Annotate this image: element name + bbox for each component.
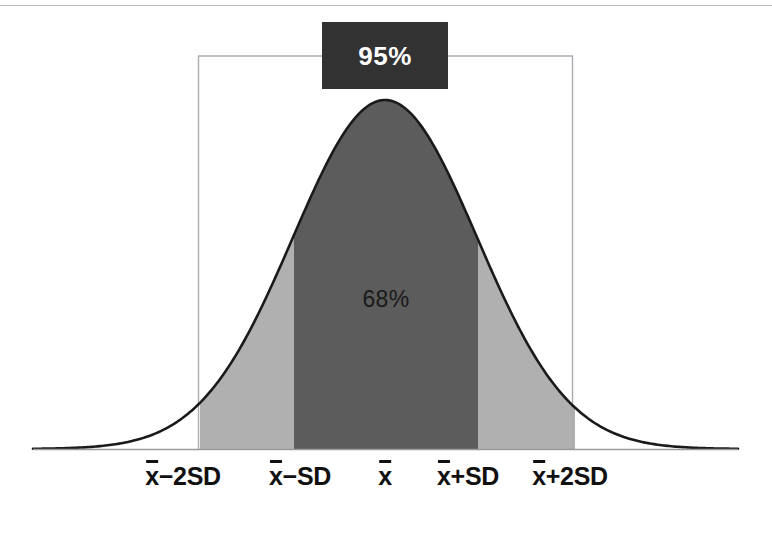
x-axis-tick-label: x+SD	[437, 462, 499, 491]
x-axis-tick-offset: +SD	[451, 462, 499, 490]
ci95-callout-box: 95%	[322, 22, 448, 89]
x-bar-symbol: x	[378, 462, 392, 491]
x-axis-tick-offset: +2SD	[546, 462, 608, 490]
x-axis-tick-label: x−2SD	[145, 462, 221, 491]
x-axis-tick-label: x	[378, 462, 392, 491]
x-axis-tick-label: x+2SD	[532, 462, 608, 491]
x-bar-symbol: x	[437, 462, 451, 491]
x-bar-symbol: x	[269, 462, 283, 491]
x-axis-tick-offset: −2SD	[159, 462, 221, 490]
x-axis-tick-offset: −SD	[283, 462, 331, 490]
figure-root: 95% 68% x−2SDx−SDxx+SDx+2SD	[0, 0, 772, 534]
x-bar-symbol: x	[532, 462, 546, 491]
x-bar-symbol: x	[145, 462, 159, 491]
ci95-percent-label: 95%	[358, 43, 412, 69]
x-axis-tick-label: x−SD	[269, 462, 331, 491]
x-axis-tick-label-group: x−2SDx−SDxx+SDx+2SD	[0, 462, 772, 506]
